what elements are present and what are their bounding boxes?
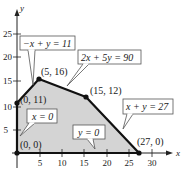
y-tick-10: 10 <box>3 102 13 112</box>
vertex-27-0 <box>136 150 141 155</box>
callout-label: 2x + 5y = 90 <box>81 52 133 63</box>
vertex-label-15-12: (15, 12) <box>90 85 122 97</box>
x-axis-label: x <box>175 148 180 158</box>
vertex-15-12 <box>83 94 88 99</box>
x-tick-10: 10 <box>58 158 68 168</box>
callout-label: x = 0 <box>31 111 53 122</box>
callout-2x-plus-5y-90: 2x + 5y = 90 <box>67 50 141 86</box>
vertex-0-0 <box>14 150 19 155</box>
vertex-label-27-0: (27, 0) <box>137 136 164 148</box>
x-tick-5: 5 <box>38 158 43 168</box>
y-tick-5: 5 <box>4 125 9 135</box>
callout-label: x + y = 27 <box>125 101 169 112</box>
x-tick-25: 25 <box>125 158 135 168</box>
vertex-label-0-11: (0, 11) <box>20 94 46 106</box>
callout-label: −x + y = 11 <box>23 38 71 49</box>
y-axis-label: y <box>19 3 24 13</box>
y-tick-15: 15 <box>3 76 13 86</box>
y-tick-20: 20 <box>3 52 13 62</box>
callout-neg-x-plus-y-11: −x + y = 11 <box>20 36 75 85</box>
callout-x-plus-y-27: x + y = 27 <box>123 99 173 129</box>
x-tick-15: 15 <box>80 158 90 168</box>
callout-label: y = 0 <box>77 127 99 138</box>
vertex-label-0-0: (0, 0) <box>20 139 42 151</box>
x-tick-20: 20 <box>103 158 113 168</box>
vertex-0-11 <box>14 100 19 105</box>
vertex-5-16 <box>36 76 41 81</box>
feasible-region-diagram: 5 10 15 20 25 y 5 10 15 20 25 30 x (0, 0… <box>0 0 185 177</box>
vertex-label-5-16: (5, 16) <box>41 66 68 78</box>
y-tick-25: 25 <box>3 29 13 39</box>
x-tick-30: 30 <box>148 158 158 168</box>
